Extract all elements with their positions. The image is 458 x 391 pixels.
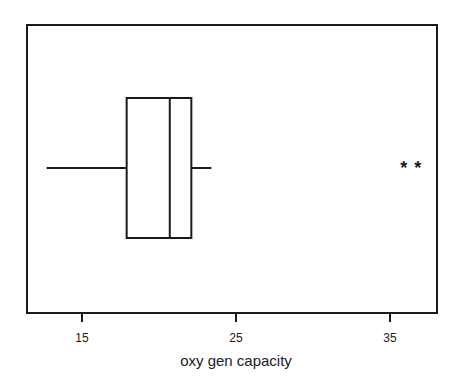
outlier-marker: * [400, 158, 407, 178]
outlier-marker: * [414, 158, 421, 178]
x-tick-label: 25 [229, 331, 243, 345]
x-tick-label: 35 [383, 331, 397, 345]
x-axis-label: oxy gen capacity [180, 352, 292, 369]
x-axis-ticks: 152535 [75, 313, 397, 345]
outliers: ** [400, 158, 421, 178]
box-and-whiskers [47, 98, 212, 238]
iqr-box [127, 98, 192, 238]
x-tick-label: 15 [75, 331, 89, 345]
boxplot-chart: ** 152535 oxy gen capacity [0, 0, 458, 391]
